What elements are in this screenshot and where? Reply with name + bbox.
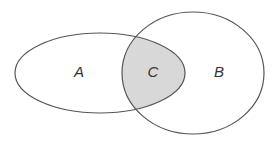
venn-diagram: A C B <box>0 0 278 141</box>
set-a-label: A <box>73 63 84 80</box>
intersection-region-c <box>122 12 264 134</box>
set-b-label: B <box>214 63 224 80</box>
intersection-c-label: C <box>148 63 159 80</box>
